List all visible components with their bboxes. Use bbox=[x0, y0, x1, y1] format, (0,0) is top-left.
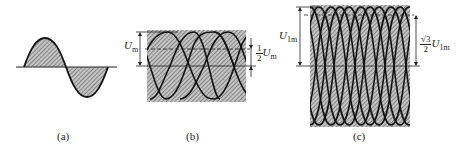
u1m-dimension-arrow bbox=[298, 7, 302, 66]
um-label: Um bbox=[124, 39, 138, 54]
caption-b: (b) bbox=[186, 130, 199, 142]
half-um-dimension-arrow bbox=[249, 38, 253, 77]
um-dimension-arrow bbox=[138, 32, 142, 66]
panel-c bbox=[290, 5, 424, 127]
sqrt3-half-u1m-dimension-arrow bbox=[414, 15, 418, 66]
u1m-label: U1m bbox=[279, 29, 297, 44]
caption-c: (c) bbox=[353, 130, 365, 142]
sqrt3-half-fraction: √32 bbox=[420, 35, 431, 54]
panel-a bbox=[16, 38, 117, 97]
caption-a: (a) bbox=[57, 130, 69, 142]
sqrt3-half-u1m-label: √32U1m bbox=[420, 35, 450, 54]
panel-b bbox=[136, 30, 256, 102]
half-um-label: 12Um bbox=[256, 44, 277, 63]
